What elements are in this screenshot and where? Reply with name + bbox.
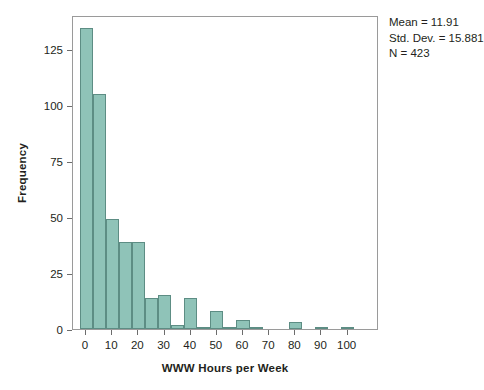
x-axis-title: WWW Hours per Week: [162, 362, 289, 374]
x-axis-tick-label: 20: [131, 339, 144, 351]
y-axis-tick-label: 50: [50, 212, 63, 224]
histogram-bar: [341, 327, 354, 329]
histogram-bar: [236, 320, 249, 329]
x-axis-tick-label: 100: [337, 339, 356, 351]
x-axis-tick: [111, 330, 112, 335]
x-axis-tick: [320, 330, 321, 335]
histogram-bar: [223, 327, 236, 329]
y-axis-tick-label: 75: [50, 156, 63, 168]
y-axis-tick-label: 0: [57, 324, 63, 336]
stat-mean: Mean = 11.91: [389, 15, 484, 31]
x-axis-tick-label: 30: [157, 339, 170, 351]
x-axis-tick-label: 40: [183, 339, 196, 351]
histogram-bar: [158, 295, 171, 329]
histogram-bar: [145, 298, 158, 329]
y-axis-tick: [67, 274, 72, 275]
stat-n: N = 423: [389, 46, 484, 62]
statistics-annotation: Mean = 11.91 Std. Dev. = 15.881 N = 423: [389, 15, 484, 62]
y-axis-tick: [67, 106, 72, 107]
x-axis-tick-label: 0: [82, 339, 88, 351]
y-axis-tick-label: 125: [44, 44, 63, 56]
x-axis-tick: [164, 330, 165, 335]
x-axis-tick-label: 60: [236, 339, 249, 351]
y-axis-tick: [67, 330, 72, 331]
x-axis-tick: [216, 330, 217, 335]
histogram-bar: [93, 94, 106, 330]
x-axis-tick-label: 70: [262, 339, 275, 351]
histogram-bar: [184, 298, 197, 329]
plot-area: [72, 16, 378, 330]
y-axis-tick: [67, 162, 72, 163]
histogram-bar: [106, 219, 119, 329]
x-axis-tick-label: 80: [288, 339, 301, 351]
histogram-bar: [315, 327, 328, 329]
histogram-bar: [197, 327, 210, 329]
histogram-bar: [80, 28, 93, 329]
y-axis-tick: [67, 218, 72, 219]
bars-container: [73, 17, 377, 329]
x-axis-tick: [190, 330, 191, 335]
y-axis-tick-label: 25: [50, 268, 63, 280]
x-axis-tick: [268, 330, 269, 335]
x-axis-tick: [137, 330, 138, 335]
stat-std-dev: Std. Dev. = 15.881: [389, 31, 484, 47]
x-axis-tick-label: 50: [209, 339, 222, 351]
x-axis-tick-label: 10: [105, 339, 118, 351]
histogram-bar: [250, 327, 263, 329]
histogram-bar: [119, 242, 132, 329]
x-axis-tick: [347, 330, 348, 335]
x-axis-tick: [85, 330, 86, 335]
y-axis-title: Frequency: [16, 143, 28, 203]
histogram-bar: [171, 325, 184, 329]
y-axis-tick: [67, 50, 72, 51]
y-axis-tick-label: 100: [44, 100, 63, 112]
x-axis-tick-label: 90: [314, 339, 327, 351]
histogram-bar: [210, 311, 223, 329]
x-axis-tick: [294, 330, 295, 335]
histogram-bar: [289, 322, 302, 329]
x-axis-tick: [242, 330, 243, 335]
histogram-bar: [132, 242, 145, 329]
